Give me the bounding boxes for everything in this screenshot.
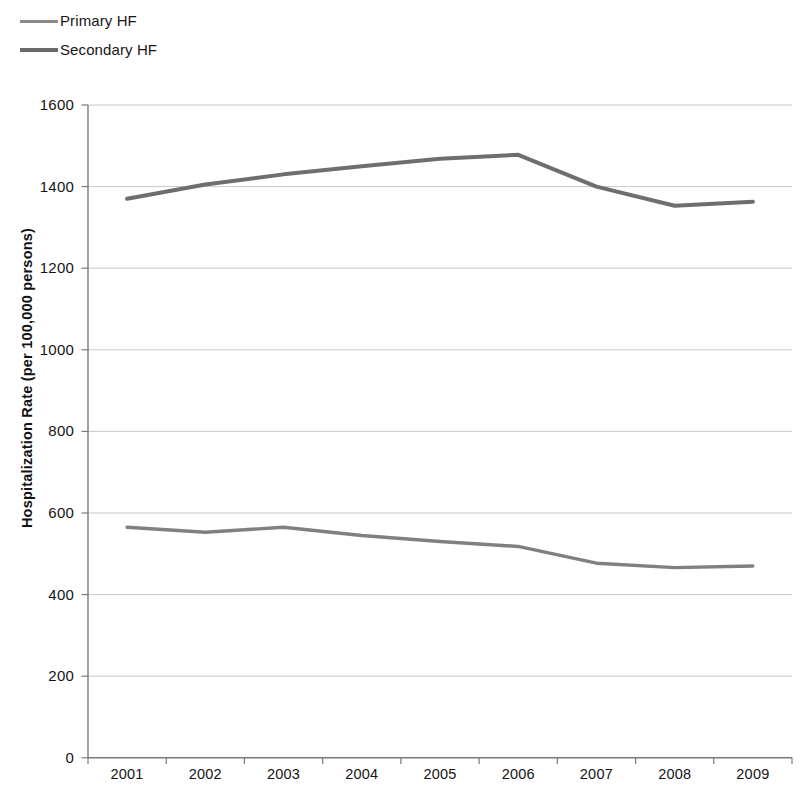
series-line-primary-hf xyxy=(127,527,753,567)
x-axis-ticks xyxy=(88,758,792,764)
plot-area xyxy=(0,0,800,797)
gridlines xyxy=(88,105,792,676)
line-chart: Primary HF Secondary HF Hospitalization … xyxy=(0,0,800,797)
y-axis-ticks xyxy=(82,105,89,758)
series-line-secondary-hf xyxy=(127,155,753,206)
